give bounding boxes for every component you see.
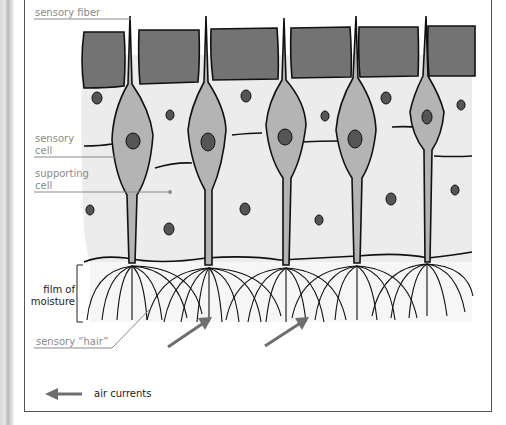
label-air-currents: air currents: [94, 388, 151, 400]
label-sensory-cell-line1: sensory: [35, 133, 74, 145]
label-film-line1: film of: [30, 284, 75, 296]
label-film-line2: moisture: [30, 296, 75, 308]
label-sensory-hair: sensory “hair”: [36, 336, 108, 348]
label-sensory-cell-line2: cell: [35, 145, 52, 157]
moisture-film-area: [90, 262, 472, 322]
label-supporting-cell-line2: cell: [35, 180, 52, 192]
olfactory-epithelium-illustration: [0, 0, 506, 425]
label-supporting-cell-line1: supporting: [35, 168, 89, 180]
label-sensory-fiber: sensory fiber: [35, 7, 100, 19]
air-current-arrows: [45, 317, 309, 400]
film-bracket: [77, 265, 83, 322]
